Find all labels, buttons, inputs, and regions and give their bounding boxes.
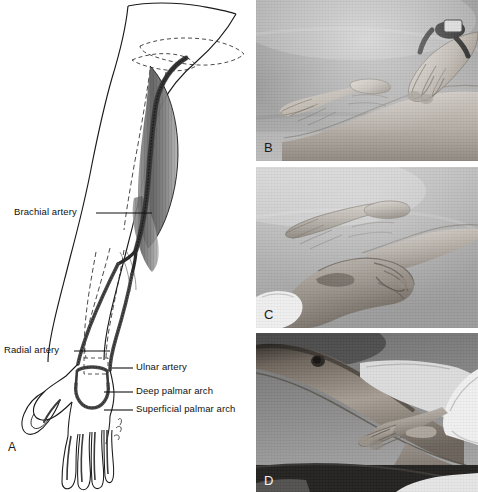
label-ulnar-artery: Ulnar artery	[136, 361, 187, 372]
arm-artery-diagram	[0, 0, 254, 492]
panel-c-image	[256, 167, 478, 328]
panel-d-image	[256, 333, 478, 492]
panel-letter-c: C	[264, 307, 273, 322]
label-superficial-palmar-arch: Superficial palmar arch	[136, 403, 235, 414]
panel-letter-b: B	[264, 140, 273, 155]
label-deep-palmar-arch: Deep palmar arch	[136, 385, 213, 396]
panel-letter-a: A	[8, 440, 16, 454]
panel-c-ulnar-pulse-photo: C	[256, 167, 478, 328]
label-radial-artery: Radial artery	[4, 344, 59, 355]
figure-container: Brachial artery Radial artery Ulnar arte…	[0, 0, 478, 492]
panel-letter-d: D	[264, 473, 273, 488]
panel-d-brachial-pulse-photo: D	[256, 333, 478, 492]
panel-b-image	[256, 0, 478, 161]
panel-a-anatomical-drawing: Brachial artery Radial artery Ulnar arte…	[0, 0, 254, 492]
panel-b-radial-pulse-photo: B	[256, 0, 478, 161]
label-brachial-artery: Brachial artery	[14, 206, 77, 217]
